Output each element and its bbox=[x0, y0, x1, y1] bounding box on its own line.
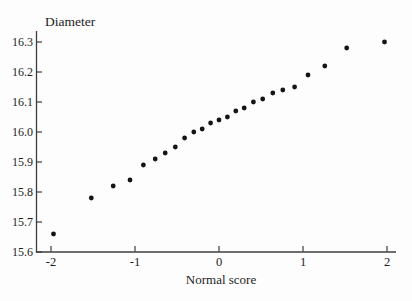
y-tick-label: 15.8 bbox=[12, 185, 33, 199]
x-tick-label: 2 bbox=[384, 255, 390, 269]
x-tick-label: 1 bbox=[300, 255, 306, 269]
y-axis-tick-labels: 16.316.216.116.015.915.815.715.6 bbox=[12, 35, 33, 259]
data-point bbox=[251, 100, 256, 105]
data-point bbox=[233, 109, 238, 114]
data-point bbox=[217, 118, 222, 123]
y-tick-label: 16.3 bbox=[12, 35, 33, 49]
data-point bbox=[128, 178, 133, 183]
x-tick-label: -2 bbox=[46, 255, 56, 269]
data-point bbox=[270, 91, 275, 96]
data-point bbox=[322, 64, 327, 69]
data-point bbox=[260, 97, 265, 102]
x-tick-label: -1 bbox=[130, 255, 140, 269]
data-point bbox=[242, 106, 247, 111]
y-tick-label: 16.2 bbox=[12, 65, 33, 79]
data-point bbox=[173, 145, 178, 150]
data-point bbox=[141, 163, 146, 168]
data-point bbox=[153, 157, 158, 162]
data-point bbox=[344, 46, 349, 51]
data-point bbox=[111, 184, 116, 189]
data-point bbox=[163, 151, 168, 156]
data-point bbox=[280, 88, 285, 93]
data-point bbox=[191, 130, 196, 135]
data-point bbox=[382, 40, 387, 45]
x-axis-ticks bbox=[51, 246, 387, 252]
data-point bbox=[208, 121, 213, 126]
y-tick-label: 16.1 bbox=[12, 95, 33, 109]
data-point bbox=[182, 136, 187, 141]
normal-probability-plot-figure: 16.316.216.116.015.915.815.715.6 -2-1012… bbox=[0, 0, 412, 301]
y-tick-label: 15.6 bbox=[12, 245, 33, 259]
data-point bbox=[306, 73, 311, 78]
y-tick-label: 15.9 bbox=[12, 155, 33, 169]
scatter-plot-canvas: 16.316.216.116.015.915.815.715.6 -2-1012… bbox=[0, 0, 412, 301]
data-points-layer bbox=[51, 40, 387, 237]
data-point bbox=[225, 115, 230, 120]
data-point bbox=[51, 232, 56, 237]
x-axis-tick-labels: -2-1012 bbox=[46, 255, 390, 269]
y-axis-title: Diameter bbox=[45, 14, 96, 29]
x-tick-label: 0 bbox=[216, 255, 222, 269]
data-point bbox=[292, 85, 297, 90]
y-tick-label: 15.7 bbox=[12, 215, 33, 229]
data-point bbox=[89, 196, 94, 201]
y-axis-ticks bbox=[37, 42, 43, 252]
data-point bbox=[200, 127, 205, 132]
y-tick-label: 16.0 bbox=[12, 125, 33, 139]
x-axis-title: Normal score bbox=[186, 272, 257, 287]
